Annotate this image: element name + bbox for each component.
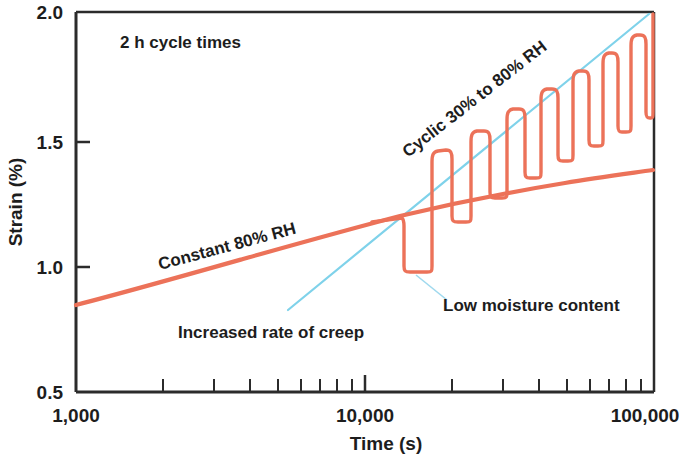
chart-figure: 2.0 1.5 1.0 0.5 1,000 10,000 100,000 Tim… xyxy=(0,0,686,456)
annotation-low-moisture: Low moisture content xyxy=(443,296,620,315)
x-tick-label-10000: 10,000 xyxy=(336,405,394,426)
x-tick-label-1000: 1,000 xyxy=(52,405,100,426)
annotation-increased-creep: Increased rate of creep xyxy=(178,323,364,342)
x-tick-label-100000: 100,000 xyxy=(611,405,680,426)
y-tick-label-0.5: 0.5 xyxy=(37,382,64,403)
x-axis-title: Time (s) xyxy=(350,433,423,454)
y-tick-label-1.0: 1.0 xyxy=(37,257,63,278)
y-tick-label-2.0: 2.0 xyxy=(37,2,63,23)
y-tick-label-1.5: 1.5 xyxy=(37,132,64,153)
annotation-cycle-times: 2 h cycle times xyxy=(120,33,241,52)
y-axis-title: Strain (%) xyxy=(5,158,26,247)
strain-time-plot: 2.0 1.5 1.0 0.5 1,000 10,000 100,000 Tim… xyxy=(0,0,686,456)
